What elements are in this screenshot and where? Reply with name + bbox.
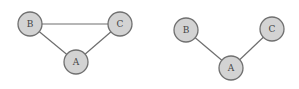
node-b: B [174,18,198,42]
node-label: A [227,63,235,73]
node-label: A [72,57,80,67]
node-label: B [27,19,34,29]
node-a: A [219,56,243,80]
node-label: C [117,19,124,29]
triangle-graph: B C A [18,12,132,74]
node-c: C [108,12,132,36]
node-label: C [269,24,276,34]
node-label: B [183,25,190,35]
path-graph: B C A [174,17,284,80]
node-a: A [64,50,88,74]
diagram-canvas: B C A B C A [0,0,299,89]
graph-diagram: B C A B C A [0,0,299,89]
node-c: C [260,17,284,41]
node-b: B [18,12,42,36]
